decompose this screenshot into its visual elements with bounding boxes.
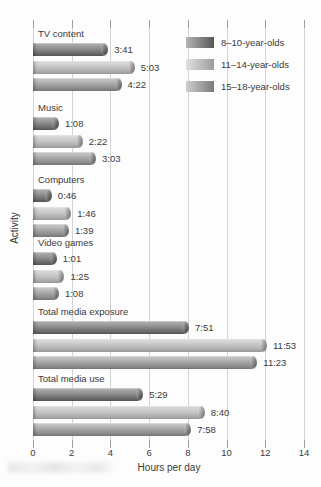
bar-end-cap: [76, 135, 83, 148]
bar-end-cap: [101, 43, 108, 56]
value-label: 0:46: [58, 189, 77, 202]
value-label: 8:40: [211, 406, 230, 419]
bar-end-cap: [136, 388, 143, 401]
legend: 8–10-year-olds 11–14-year-olds 15–18-yea…: [186, 31, 290, 97]
x-tick-label: 14: [292, 447, 316, 458]
value-label: 5:29: [149, 388, 168, 401]
bar-end-cap: [52, 117, 59, 130]
bar: [33, 339, 267, 352]
bar: [33, 388, 143, 401]
value-label: 7:51: [195, 321, 214, 334]
category-label: Video games: [38, 236, 93, 249]
category-label: Music: [38, 101, 63, 114]
value-label: 1:25: [70, 270, 89, 283]
bar: [33, 189, 52, 202]
axis-tick-top: [304, 20, 305, 28]
bar-end-cap: [260, 339, 267, 352]
value-label: 1:08: [65, 117, 84, 130]
bar-end-cap: [52, 287, 59, 300]
bar-end-cap: [45, 189, 52, 202]
legend-row-15-18: 15–18-year-olds: [186, 75, 290, 97]
value-label: 1:01: [63, 252, 82, 265]
legend-label-8-10: 8–10-year-olds: [221, 37, 284, 48]
bar-end-cap: [64, 207, 71, 220]
bar: [33, 78, 122, 91]
bar: [33, 61, 135, 74]
media-hours-bar-chart: Activity 02468101214TV content3:415:034:…: [0, 0, 321, 487]
axis-tick-top: [33, 20, 34, 28]
x-tick-label: 4: [98, 447, 122, 458]
category-label: TV content: [38, 27, 84, 40]
bar: [33, 207, 71, 220]
axis-tick-top: [188, 20, 189, 28]
bar-end-cap: [198, 406, 205, 419]
value-label: 11:53: [273, 339, 296, 352]
bar-end-cap: [57, 270, 64, 283]
legend-swatch-15-18: [186, 81, 214, 92]
value-label: 4:22: [128, 78, 147, 91]
legend-swatch-8-10: [186, 37, 214, 48]
bar: [33, 356, 257, 369]
gridline: [304, 20, 305, 448]
value-label: 7:58: [197, 423, 216, 436]
bar: [33, 252, 57, 265]
axis-tick-top: [110, 20, 111, 28]
x-tick-label: 6: [137, 447, 161, 458]
bar: [33, 135, 83, 148]
category-label: Total media use: [38, 372, 105, 385]
bar-end-cap: [50, 252, 57, 265]
x-tick-label: 10: [215, 447, 239, 458]
bar: [33, 321, 189, 334]
category-label: Computers: [38, 173, 84, 186]
legend-label-11-14: 11–14-year-olds: [221, 59, 289, 70]
bar-end-cap: [128, 61, 135, 74]
bar: [33, 117, 59, 130]
bar: [33, 423, 191, 436]
category-label: Total media exposure: [38, 305, 128, 318]
x-tick-label: 0: [21, 447, 45, 458]
legend-label-15-18: 15–18-year-olds: [221, 81, 290, 92]
axis-tick-top: [227, 20, 228, 28]
bar-end-cap: [184, 423, 191, 436]
value-label: 3:41: [114, 43, 133, 56]
bar: [33, 287, 59, 300]
value-label: 1:08: [65, 287, 84, 300]
x-axis-title: Hours per day: [138, 462, 201, 473]
value-label: 5:03: [141, 61, 160, 74]
legend-swatch-11-14: [186, 59, 214, 70]
bar-end-cap: [89, 152, 96, 165]
value-label: 3:03: [102, 152, 121, 165]
bar-end-cap: [182, 321, 189, 334]
bar: [33, 270, 64, 283]
bar: [33, 406, 205, 419]
bar-end-cap: [250, 356, 257, 369]
gridline: [149, 20, 150, 448]
value-label: 2:22: [89, 135, 108, 148]
bar: [33, 152, 96, 165]
x-tick-label: 12: [253, 447, 277, 458]
legend-row-11-14: 11–14-year-olds: [186, 53, 290, 75]
print-artifact-smudge: [8, 462, 113, 473]
legend-row-8-10: 8–10-year-olds: [186, 31, 290, 53]
bar: [33, 43, 108, 56]
axis-tick-top: [149, 20, 150, 28]
axis-tick-top: [265, 20, 266, 28]
value-label: 11:23: [263, 356, 286, 369]
x-tick-label: 2: [60, 447, 84, 458]
x-tick-label: 8: [176, 447, 200, 458]
bar-end-cap: [115, 78, 122, 91]
y-axis-title: Activity: [9, 212, 20, 244]
value-label: 1:46: [77, 207, 96, 220]
